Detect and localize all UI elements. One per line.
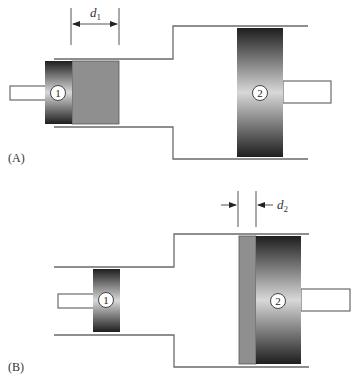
piston-number-badge: 1 [99, 293, 114, 308]
dimension-label-d2: d2 [277, 197, 288, 214]
svg-text:2: 2 [257, 87, 263, 99]
panel-label-b: (B) [8, 360, 24, 374]
panel-b: d2 1 2 (B) [8, 191, 350, 374]
arrowhead-right-icon [229, 202, 237, 208]
fluid-column [72, 61, 119, 124]
arrowhead-right-icon [110, 21, 118, 27]
svg-text:2: 2 [275, 295, 281, 307]
piston-rod-small [10, 86, 46, 100]
arrowhead-left-icon [257, 202, 265, 208]
piston-rod-large [283, 81, 331, 103]
svg-text:1: 1 [103, 294, 109, 306]
piston-number-badge: 2 [253, 86, 268, 101]
fluid-column [239, 236, 256, 364]
piston-number-badge: 1 [51, 86, 66, 101]
panel-a: d1 1 2 (A) [8, 5, 331, 165]
panel-label-a: (A) [8, 151, 25, 165]
piston-rod-small [58, 294, 94, 308]
svg-text:1: 1 [55, 87, 61, 99]
hydraulic-press-diagram: d1 1 2 (A) d2 [0, 0, 360, 380]
dimension-d2: d2 [221, 191, 288, 227]
piston-rod-large [301, 289, 350, 311]
dimension-label-d1: d1 [90, 5, 101, 22]
arrowhead-left-icon [72, 21, 80, 27]
dimension-d1: d1 [71, 5, 119, 45]
piston-number-badge: 2 [271, 294, 286, 309]
